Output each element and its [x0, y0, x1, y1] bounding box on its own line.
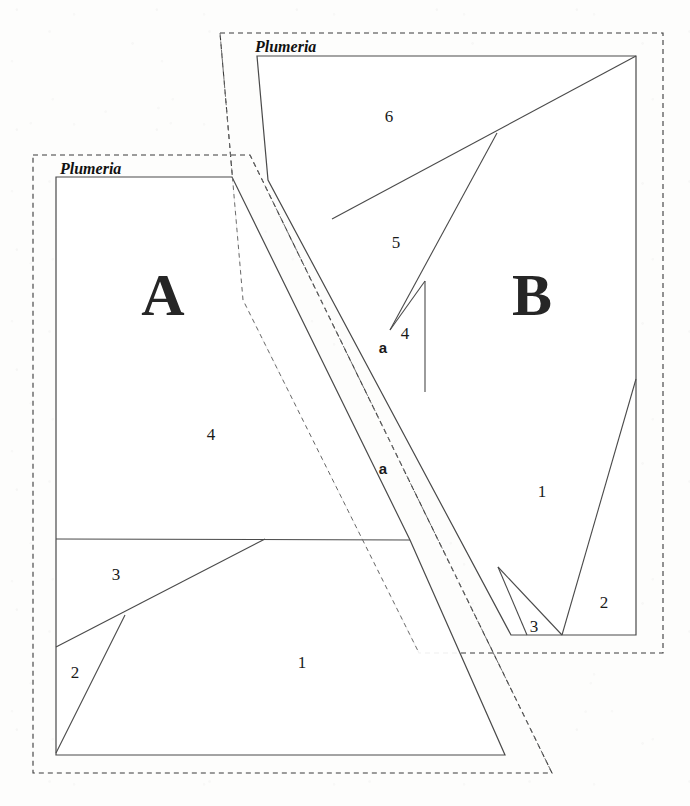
block-b-piece-5-label: 5 — [392, 233, 401, 252]
block-a-piece-2-label: 2 — [71, 663, 80, 682]
block-a-piece-4-label: 4 — [207, 425, 216, 444]
block-b-piece-2-label: 2 — [600, 593, 609, 612]
pattern-diagram-page: Plumeria Plumeria A B 4 3 2 1 6 5 4 1 2 … — [0, 0, 690, 806]
block-b-piece-3-label: 3 — [530, 617, 539, 636]
block-b-piece-1-label: 1 — [538, 482, 547, 501]
block-b-letter: B — [512, 262, 552, 328]
brand-label-block-a: Plumeria — [59, 160, 121, 177]
block-a-letter: A — [141, 262, 184, 328]
pattern-diagram-svg: Plumeria Plumeria A B 4 3 2 1 6 5 4 1 2 … — [0, 0, 690, 806]
sub-label-a-upper: a — [379, 339, 388, 356]
sub-label-a-lower: a — [379, 460, 388, 477]
block-a-piece-1-label: 1 — [298, 653, 307, 672]
block-b-piece-6-label: 6 — [385, 107, 394, 126]
block-b-piece-4-label: 4 — [401, 324, 410, 343]
block-a-piece-3-label: 3 — [112, 565, 121, 584]
brand-label-block-b: Plumeria — [254, 38, 316, 55]
